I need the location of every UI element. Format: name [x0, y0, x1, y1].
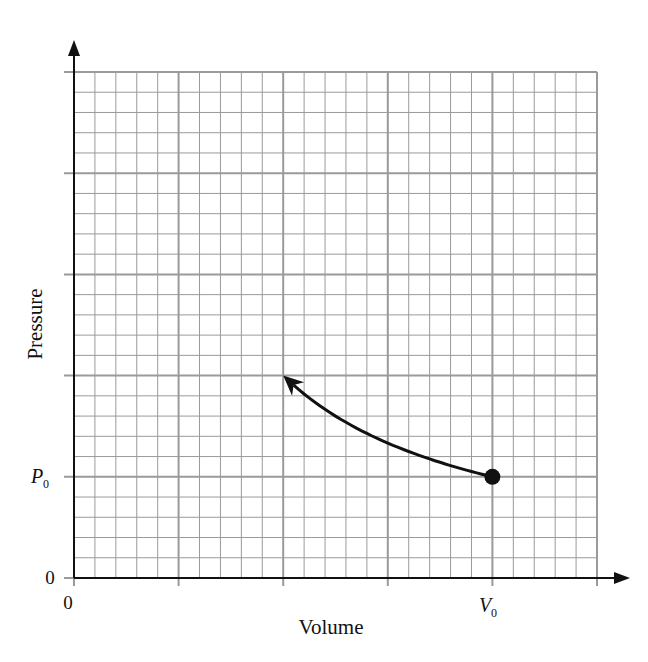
y-axis-title: Pressure	[23, 288, 47, 359]
y-origin-label: 0	[45, 567, 55, 588]
start-point-marker	[484, 469, 500, 485]
p0-tick-label: P0	[30, 465, 49, 491]
grid	[64, 72, 597, 586]
x-axis-title: Volume	[299, 615, 364, 639]
process-curve	[294, 385, 493, 477]
pv-diagram: 0 0 V0 P0 Volume Pressure	[0, 0, 648, 662]
y-axis-arrow-icon	[68, 40, 80, 56]
x-origin-label: 0	[63, 592, 73, 613]
x-axis-arrow-icon	[614, 572, 630, 584]
v0-tick-label: V0	[479, 594, 497, 620]
